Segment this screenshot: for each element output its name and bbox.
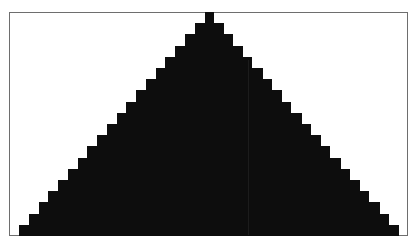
pyramid-step-row <box>175 46 243 57</box>
pyramid-step-row <box>19 225 399 236</box>
pyramid-step-row <box>87 146 330 158</box>
pyramid-step-row <box>146 79 272 90</box>
pyramid-step-row <box>185 34 233 46</box>
pyramid-step-row <box>165 57 252 68</box>
vertical-seam-line <box>248 60 249 235</box>
pyramid-step-row <box>195 23 224 34</box>
stepped-pyramid <box>0 0 418 243</box>
pyramid-step-row <box>68 169 350 180</box>
pyramid-step-row <box>126 102 291 113</box>
pyramid-step-row <box>156 68 263 79</box>
pyramid-step-row <box>39 202 380 214</box>
pyramid-step-row <box>117 113 302 124</box>
pyramid-step-row <box>205 12 214 23</box>
pyramid-step-row <box>107 124 311 135</box>
pyramid-step-row <box>136 90 282 102</box>
pyramid-step-row <box>29 214 389 225</box>
pyramid-step-row <box>48 191 369 202</box>
pyramid-step-row <box>58 180 360 191</box>
pyramid-step-row <box>78 158 341 169</box>
pyramid-step-row <box>97 135 321 146</box>
